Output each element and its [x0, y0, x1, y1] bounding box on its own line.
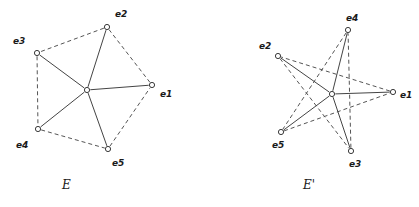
dashed-edge-e4-e5: [283, 33, 346, 129]
node-label-e4: e4: [16, 140, 28, 150]
graph-figure: e1e2e3e4e5Ee1e2e3e4e5E': [0, 0, 419, 207]
node-label-e5: e5: [112, 158, 124, 168]
node-label-e1: e1: [160, 89, 172, 99]
dashed-edge-e3-e4: [348, 33, 351, 147]
panel-E: e1e2e3e4e5E: [13, 9, 172, 192]
node-e4[interactable]: [35, 126, 40, 131]
node-label-e1: e1: [400, 90, 412, 100]
node-e2[interactable]: [275, 53, 280, 58]
dashed-edge-group: [280, 33, 390, 149]
node-e1[interactable]: [149, 82, 154, 87]
solid-edge-center-e1: [335, 92, 389, 94]
solid-edge-center-e4: [41, 92, 85, 127]
panel-E-prime: e1e2e3e4e5E': [259, 13, 412, 192]
solid-edge-group: [40, 30, 149, 146]
panel-caption-panel-E-prime: E': [302, 178, 315, 192]
node-e2[interactable]: [104, 24, 109, 29]
dashed-edge-e5-e1: [110, 88, 150, 147]
dashed-edge-e2-e3: [40, 28, 104, 52]
node-e1[interactable]: [390, 89, 395, 94]
dashed-edge-e5-e1: [284, 93, 390, 131]
node-group: e1e2e3e4e5: [13, 9, 172, 168]
dashed-edge-group: [37, 28, 150, 148]
dashed-edge-e2-e3: [280, 59, 349, 149]
solid-edge-center-e2: [281, 58, 330, 92]
node-label-e5: e5: [272, 140, 284, 150]
node-label-e3: e3: [349, 159, 361, 169]
dashed-edge-e1-e2: [281, 57, 390, 91]
panel-caption-panel-E: E: [61, 178, 71, 192]
node-label-e2: e2: [115, 9, 127, 19]
node-e4[interactable]: [345, 27, 350, 32]
solid-edge-center-e5: [284, 96, 330, 130]
solid-edge-center-e3: [40, 55, 85, 88]
solid-edge-center-e3: [333, 97, 350, 148]
node-center[interactable]: [329, 91, 334, 96]
node-center[interactable]: [84, 87, 89, 92]
solid-edge-center-e5: [88, 93, 107, 146]
node-e3[interactable]: [348, 148, 353, 153]
graph-figure-canvas: e1e2e3e4e5Ee1e2e3e4e5E': [0, 0, 419, 207]
node-e5[interactable]: [278, 129, 283, 134]
node-label-e4: e4: [346, 13, 358, 23]
node-label-e3: e3: [13, 36, 25, 46]
dashed-edge-e1-e2: [109, 30, 150, 83]
solid-edge-center-e1: [90, 85, 148, 89]
node-e5[interactable]: [105, 146, 110, 151]
dashed-edge-e3-e4: [37, 56, 38, 125]
node-label-e2: e2: [259, 41, 271, 51]
node-e3[interactable]: [34, 50, 39, 55]
dashed-edge-e4-e5: [41, 130, 105, 148]
solid-edge-group: [281, 33, 390, 148]
solid-edge-center-e2: [88, 30, 106, 87]
